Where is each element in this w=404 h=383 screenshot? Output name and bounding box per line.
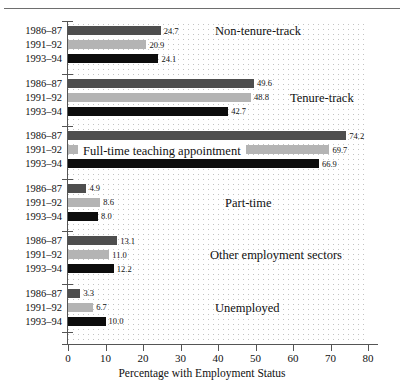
bar-value-label: 8.0 <box>101 212 112 221</box>
bar <box>68 317 106 326</box>
y-axis-year-label: 1986–87 <box>6 288 68 299</box>
x-axis-tick <box>293 345 294 351</box>
bar <box>68 26 161 35</box>
y-axis-year-label: 1993–94 <box>6 106 68 117</box>
x-axis-tick-label: 30 <box>166 352 196 364</box>
category-label: Unemployed <box>215 301 280 315</box>
category-label: Full-time teaching appointment <box>78 143 246 159</box>
bar <box>68 198 100 207</box>
bar-value-label: 49.6 <box>257 79 272 88</box>
bar-value-label: 4.9 <box>89 184 100 193</box>
plot-dotted-grid <box>68 24 368 342</box>
category-label: Non-tenure-track <box>215 24 301 38</box>
x-axis-tick <box>331 345 332 351</box>
bar-value-label: 11.0 <box>112 251 127 260</box>
bar <box>68 212 98 221</box>
y-axis-group-tick <box>62 231 73 232</box>
y-axis-year-label: 1993–94 <box>6 53 68 64</box>
chart-figure: 1986–871991–921993–941986–871991–921993–… <box>0 0 404 383</box>
y-axis-group-tick <box>62 74 73 75</box>
bar-value-label: 3.3 <box>83 289 94 298</box>
x-axis-tick <box>218 345 219 351</box>
bar <box>68 93 251 102</box>
x-axis-tick-label: 60 <box>278 352 308 364</box>
x-axis-tick <box>181 345 182 351</box>
y-axis-year-label: 1993–94 <box>6 158 68 169</box>
bar-value-label: 42.7 <box>231 107 246 116</box>
category-label: Tenure-track <box>290 91 354 105</box>
bar-value-label: 10.0 <box>109 317 124 326</box>
y-axis-year-label: 1991–92 <box>6 144 68 155</box>
bar-value-label: 13.1 <box>120 237 135 246</box>
x-axis-tick <box>68 345 69 351</box>
x-axis-tick-label: 40 <box>203 352 233 364</box>
x-axis-title: Percentage with Employment Status <box>0 367 404 379</box>
y-axis-year-labels: 1986–871991–921993–941986–871991–921993–… <box>0 0 68 383</box>
x-axis-tick <box>143 345 144 351</box>
y-axis-year-label: 1991–92 <box>6 197 68 208</box>
bar-value-label: 66.9 <box>322 160 337 169</box>
x-axis-tick-label: 70 <box>316 352 346 364</box>
y-axis-group-tick <box>62 179 73 180</box>
bar-value-label: 48.8 <box>254 93 269 102</box>
y-axis-year-label: 1986–87 <box>6 235 68 246</box>
y-axis-year-label: 1986–87 <box>6 78 68 89</box>
bar-value-label: 74.2 <box>349 132 364 141</box>
plot-area <box>68 24 368 342</box>
y-axis-year-label: 1991–92 <box>6 92 68 103</box>
y-axis-year-label: 1991–92 <box>6 249 68 260</box>
bar <box>68 264 114 273</box>
x-axis-tick <box>256 345 257 351</box>
y-axis-year-label: 1986–87 <box>6 130 68 141</box>
bar-value-label: 8.6 <box>103 198 114 207</box>
category-label: Part-time <box>225 196 272 210</box>
x-axis-tick <box>106 345 107 351</box>
y-axis-year-label: 1993–94 <box>6 211 68 222</box>
x-axis-tick-label: 20 <box>128 352 158 364</box>
bar <box>68 236 117 245</box>
bar <box>68 79 254 88</box>
y-axis-group-tick <box>62 284 73 285</box>
bar-value-label: 69.7 <box>332 146 347 155</box>
x-axis-tick-label: 10 <box>91 352 121 364</box>
bar <box>68 250 109 259</box>
x-axis-tick <box>368 345 369 351</box>
bar-value-label: 6.7 <box>96 303 107 312</box>
x-axis-tick-label: 80 <box>353 352 383 364</box>
bar-value-label: 20.9 <box>149 41 164 50</box>
bar <box>68 289 80 298</box>
category-label: Other employment sectors <box>210 248 342 262</box>
x-axis-tick-label: 0 <box>53 352 83 364</box>
bar <box>68 54 158 63</box>
y-axis-year-label: 1986–87 <box>6 25 68 36</box>
bar <box>68 107 228 116</box>
y-axis-year-label: 1991–92 <box>6 302 68 313</box>
y-axis-year-label: 1993–94 <box>6 263 68 274</box>
bar-value-label: 24.1 <box>161 55 176 64</box>
bar <box>68 303 93 312</box>
bar <box>68 159 319 168</box>
bar <box>68 184 86 193</box>
bar <box>68 131 346 140</box>
bar-value-label: 12.2 <box>117 265 132 274</box>
y-axis-group-tick <box>62 332 73 333</box>
bar-value-label: 24.7 <box>164 27 179 36</box>
bar <box>68 40 146 49</box>
y-axis-group-tick <box>62 126 73 127</box>
y-axis-year-label: 1986–87 <box>6 183 68 194</box>
x-axis-tick-label: 50 <box>241 352 271 364</box>
y-axis-year-label: 1993–94 <box>6 316 68 327</box>
y-axis-group-tick <box>62 21 73 22</box>
y-axis-year-label: 1991–92 <box>6 39 68 50</box>
